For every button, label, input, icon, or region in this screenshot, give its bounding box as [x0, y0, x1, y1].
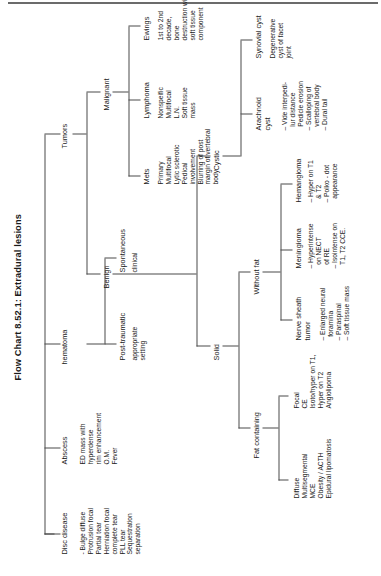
node-hematoma[interactable]: hematoma	[60, 329, 69, 364]
malignant-stem	[112, 91, 128, 92]
detail-abscess: ED mass with hyperdense rim enhancement …	[78, 412, 118, 464]
without-fat-stem	[262, 271, 280, 272]
node-ewings[interactable]: Ewings	[142, 16, 151, 40]
drop-arachnoid	[240, 113, 252, 114]
detail-spontaneous: clinical	[130, 252, 138, 272]
node-arachnoid-cyst[interactable]: Arachnoid cyst	[254, 97, 271, 130]
drop-benign	[86, 273, 100, 274]
detail-fat-focal: Focal CE Isoto/hyper on T1, Hyper on T2 …	[292, 354, 332, 408]
trunk-line	[44, 134, 45, 534]
malignant-bar	[128, 26, 129, 176]
node-synovial-cyst[interactable]: Synovial cyst	[254, 15, 263, 58]
detail-nerve-sheath-tumor: – Enlarged neural foramina – Paraspinal …	[318, 285, 350, 340]
detail-mets: Primary Multifocal Lytic sclerotic Pedic…	[156, 128, 219, 184]
node-abscess[interactable]: Abscess	[60, 436, 69, 464]
node-tumors[interactable]: Tumors	[60, 123, 69, 148]
drop-ewings	[128, 25, 140, 26]
drop-fat-diffuse	[278, 479, 288, 480]
drop-solid	[196, 345, 210, 346]
fat-bar	[278, 396, 279, 480]
node-solid[interactable]: Solid	[212, 344, 221, 360]
drop-synovial	[240, 39, 252, 40]
solid-stem	[222, 345, 238, 346]
detail-fat-diffuse: Diffuse Multisegmental MCE Obesity / ACT…	[292, 438, 332, 498]
drop-fat-focal	[278, 395, 288, 396]
drop-hematoma	[44, 343, 60, 344]
detail-disc-disease: - Bulge diffuse Protrusion focal Partial…	[78, 508, 141, 554]
node-hemangioma[interactable]: Hemangioma	[294, 158, 303, 202]
drop-without-fat	[238, 271, 250, 272]
detail-hemangioma: – Hyper on T1 & T2 – Polko - dot appeara…	[306, 160, 338, 202]
drop-nst	[280, 319, 292, 320]
drop-spontaneous	[104, 257, 116, 258]
fat-stem	[262, 427, 278, 428]
detail-meningioma: – Hyperintense on NECT of RE – Isointens…	[306, 223, 346, 268]
tumors-bar	[86, 92, 87, 274]
page-title: Flow Chart 8.52.1: Extradural lesions	[12, 214, 22, 380]
node-lymphoma[interactable]: Lymphoma	[142, 82, 151, 118]
node-fat-containing[interactable]: Fat containing	[252, 412, 261, 458]
node-spontaneous[interactable]: Spontaneous	[118, 228, 127, 272]
node-mets[interactable]: Mets	[142, 168, 151, 184]
drop-tumors	[44, 133, 60, 134]
drop-hemangioma	[280, 183, 292, 184]
solid-bar	[238, 272, 239, 428]
tumors-stem	[72, 133, 86, 134]
drop-abscess	[44, 447, 60, 448]
drop-meningioma	[280, 249, 292, 250]
detail-arachnoid-cyst: – Vide interpedi- lur distance Pedicle e…	[280, 81, 327, 130]
hematoma-stem	[86, 343, 104, 344]
node-meningioma[interactable]: Meningioma	[294, 228, 303, 268]
node-post-traumatic[interactable]: Post-traumatic	[118, 312, 127, 360]
cystic-link	[240, 114, 241, 156]
detail-ewings: 1st to 2nd decade, bone destruction with…	[156, 0, 203, 40]
node-disc-disease[interactable]: Disc disease	[60, 512, 69, 554]
drop-fat-containing	[238, 427, 250, 428]
without-fat-bar	[280, 184, 281, 320]
node-without-fat[interactable]: Without fat	[252, 259, 261, 294]
cystic-stem	[222, 155, 240, 156]
drop-lymphoma	[128, 99, 140, 100]
benign-stem	[112, 273, 196, 274]
node-nerve-sheath-tumor[interactable]: Nerve sheath tumor	[294, 296, 311, 340]
drop-disc	[44, 533, 60, 534]
cystic-bar	[240, 40, 241, 114]
node-benign[interactable]: Benign	[102, 265, 111, 288]
detail-post-traumatic: appropriate setting	[130, 326, 146, 360]
drop-malignant	[86, 91, 100, 92]
flowchart-canvas: Flow Chart 8.52.1: Extradural lesions	[0, 0, 381, 576]
benign-bar	[196, 156, 197, 346]
flowchart-page: Flow Chart 8.52.1: Extradural lesions	[0, 0, 381, 576]
detail-lymphoma: Nonspeific Multifocal L.N. Soft tissue m…	[156, 87, 196, 118]
detail-synovial-cyst: Degenerative cyst of facet joint	[268, 18, 292, 58]
node-malignant[interactable]: Malignant	[102, 78, 111, 110]
drop-posttraumatic	[104, 343, 116, 344]
drop-mets	[128, 175, 140, 176]
